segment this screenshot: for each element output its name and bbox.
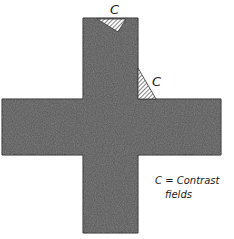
contrast-label-right: C [152,74,162,89]
contrast-label-top: C [110,2,120,17]
cross-shape [2,18,221,233]
contrast-field-diagram: C C C = Contrast fields [0,0,234,239]
legend-line-1: C = Contrast [155,175,221,186]
legend-line-2: fields [165,189,192,200]
